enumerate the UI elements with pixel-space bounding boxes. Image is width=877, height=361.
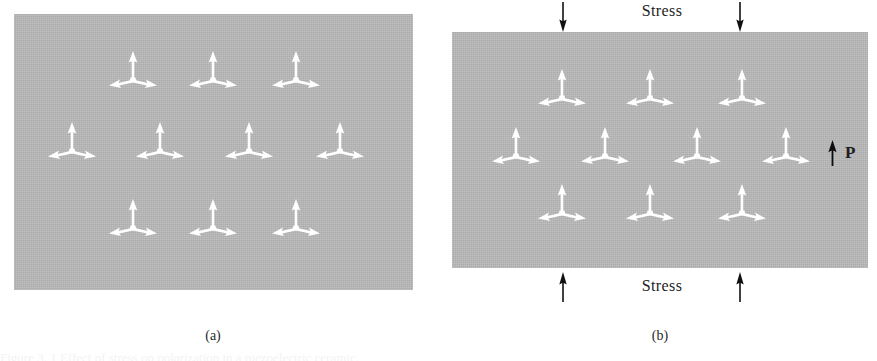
figure-root: Stress Stress P (a) (b) Figure 3. 1 Effe… — [0, 0, 877, 361]
tripod-arrow-icon — [626, 69, 674, 111]
tripod-arrow-icon — [581, 127, 629, 169]
stress-arrow-top-left-icon — [558, 2, 569, 32]
tripod-arrow-icon — [626, 184, 674, 226]
polarization-label: P — [845, 143, 855, 163]
tripod-arrow-icon — [136, 122, 184, 164]
stress-label-top: Stress — [642, 2, 683, 20]
polarization-arrow-icon — [826, 140, 839, 170]
panel-caption-a: (a) — [205, 328, 221, 344]
tripod-arrow-icon — [718, 184, 766, 226]
tripod-arrow-icon — [225, 122, 273, 164]
tripod-arrow-icon — [272, 51, 320, 93]
stress-arrow-bottom-left-icon — [558, 272, 569, 302]
tripod-arrow-icon — [48, 122, 96, 164]
tripod-arrow-icon — [538, 184, 586, 226]
stress-label-bottom: Stress — [642, 277, 683, 295]
tripod-arrow-icon — [189, 51, 237, 93]
tripod-arrow-icon — [272, 199, 320, 241]
tripod-arrow-icon — [762, 127, 810, 169]
panel-caption-b: (b) — [652, 328, 668, 344]
tripod-arrow-icon — [492, 127, 540, 169]
tripod-arrow-icon — [673, 127, 721, 169]
tripod-arrow-icon — [109, 51, 157, 93]
stress-arrow-top-right-icon — [735, 2, 746, 32]
tripod-arrow-icon — [189, 199, 237, 241]
tripod-arrow-icon — [718, 69, 766, 111]
stress-arrow-bottom-right-icon — [735, 272, 746, 302]
tripod-arrow-icon — [316, 122, 364, 164]
figure-bottom-caption: Figure 3. 1 Effect of stress on polariza… — [0, 351, 877, 361]
tripod-arrow-icon — [109, 199, 157, 241]
tripod-arrow-icon — [538, 69, 586, 111]
